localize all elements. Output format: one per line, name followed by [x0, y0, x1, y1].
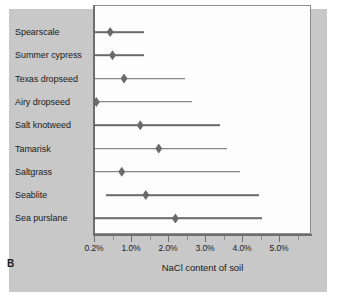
category-label: Summer cypress — [15, 50, 93, 60]
category-label: Sea purslane — [15, 213, 93, 223]
category-label: Spearscale — [15, 27, 93, 37]
x-tick-minor — [187, 236, 188, 240]
y-axis-line — [93, 5, 95, 236]
x-axis-title: NaCl content of soil — [93, 262, 312, 273]
x-tick-label: 3.0% — [196, 243, 215, 253]
category-label: Seablite — [15, 190, 93, 200]
category-label: Salt knotweed — [15, 120, 93, 130]
category-label: Saltgrass — [15, 167, 93, 177]
category-label: Airy dropseed — [15, 97, 93, 107]
x-tick-4-0 — [242, 236, 243, 242]
range-line — [94, 31, 144, 33]
range-line — [94, 124, 220, 126]
x-tick-minor — [150, 236, 151, 240]
figure-panel-b: 0.2%1.0%2.0%3.0%4.0%5.0% SpearscaleSumme… — [0, 0, 340, 301]
x-tick-label: 4.0% — [233, 243, 252, 253]
x-tick-3-0 — [205, 236, 206, 242]
x-tick-1-0 — [131, 236, 132, 242]
range-line — [94, 171, 240, 173]
x-tick-0-2 — [94, 236, 95, 242]
range-line — [94, 101, 192, 103]
category-label: Tamarisk — [15, 144, 93, 154]
x-tick-label: 1.0% — [122, 243, 141, 253]
x-tick-label: 0.2% — [85, 243, 104, 253]
x-tick-label: 2.0% — [159, 243, 178, 253]
x-tick-minor — [298, 236, 299, 240]
range-line — [94, 78, 185, 80]
plot-area — [93, 5, 311, 234]
x-tick-5-0 — [279, 236, 280, 242]
x-tick-minor — [113, 236, 114, 240]
x-tick-minor — [224, 236, 225, 240]
x-tick-2-0 — [168, 236, 169, 242]
x-tick-minor — [261, 236, 262, 240]
category-label: Texas dropseed — [15, 74, 93, 84]
range-line — [106, 194, 259, 196]
range-line — [94, 55, 144, 57]
panel-letter-label: B — [7, 258, 14, 269]
x-tick-label: 5.0% — [270, 243, 289, 253]
